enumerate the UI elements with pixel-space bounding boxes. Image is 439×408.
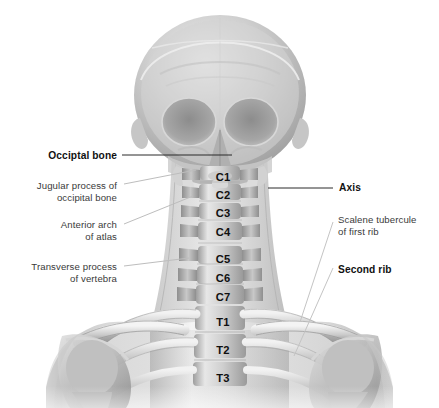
label-transverse-process-of-vertebra: Transverse process of vertebra (16, 261, 117, 286)
vertebra-label-c7: C7 (206, 291, 240, 303)
label-anterior-arch-of-atlas: Anterior arch of atlas (30, 219, 117, 244)
vertebra-label-c1: C1 (206, 171, 240, 183)
vertebra-label-c5: C5 (206, 253, 240, 265)
vertebra-label-c3: C3 (206, 207, 240, 219)
anatomy-figure: Occiptal bone Jugular process of occipit… (0, 0, 439, 408)
vertebra-label-c6: C6 (206, 272, 240, 284)
label-axis: Axis (339, 181, 399, 194)
label-scalene-tubercule-of-first-rib: Scalene tubercule of first rib (338, 214, 436, 239)
vertebra-label-t1: T1 (206, 316, 240, 328)
vertebra-label-t3: T3 (206, 372, 240, 384)
vertebra-label-c2: C2 (206, 189, 240, 201)
label-second-rib: Second rib (338, 263, 418, 276)
vertebra-label-c4: C4 (206, 226, 240, 238)
label-occipital-bone: Occiptal bone (33, 149, 117, 162)
vertebra-label-t2: T2 (206, 344, 240, 356)
label-jugular-process-of-occipital-bone: Jugular process of occipital bone (20, 180, 117, 205)
